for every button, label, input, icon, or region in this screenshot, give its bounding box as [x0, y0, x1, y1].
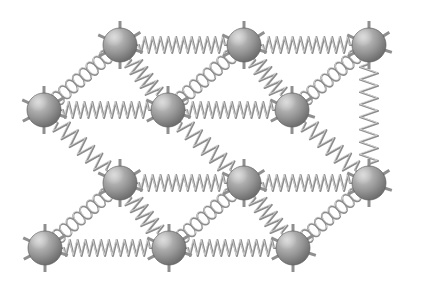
- atom-specular-highlight: [27, 93, 61, 127]
- atom-specular-highlight: [151, 93, 185, 127]
- atom-specular-highlight: [275, 93, 309, 127]
- atom-specular-highlight: [103, 28, 137, 62]
- atom-specular-highlight: [103, 166, 137, 200]
- lattice-diagram: [0, 0, 422, 289]
- lattice-figure: [0, 0, 422, 289]
- atom-specular-highlight: [352, 28, 386, 62]
- atom-specular-highlight: [276, 231, 310, 265]
- atom-specular-highlight: [28, 231, 62, 265]
- atom-specular-highlight: [227, 28, 261, 62]
- atom-specular-highlight: [352, 166, 386, 200]
- atom-specular-highlight: [152, 231, 186, 265]
- atom-specular-highlight: [227, 166, 261, 200]
